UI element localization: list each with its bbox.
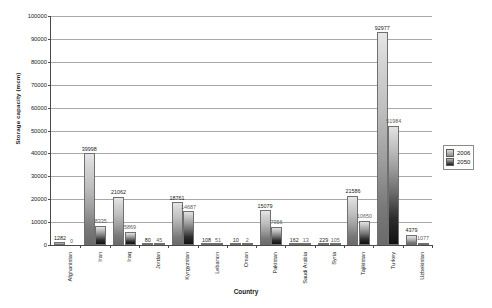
- bar-value-label: 21586: [345, 188, 360, 194]
- bar-group: 1876114687: [168, 16, 197, 245]
- bar-2006: [318, 243, 329, 245]
- legend-item-2006: 2006: [446, 149, 470, 157]
- bar-group: 229105: [315, 16, 344, 245]
- y-axis-tick-label: 40000: [31, 150, 47, 156]
- bar-2050: [388, 126, 399, 245]
- y-axis-tick-label: 70000: [31, 82, 47, 88]
- bar-2050: [183, 211, 194, 245]
- y-axis-tick-label: 80000: [31, 59, 47, 65]
- bar-2050: [212, 243, 223, 245]
- bar-group: 12820: [51, 16, 80, 245]
- bar-group: 399988335: [80, 16, 109, 245]
- bar-2006: [406, 235, 417, 245]
- bar-2050: [330, 243, 341, 245]
- bar-value-label: 39998: [82, 146, 97, 152]
- y-axis-tick-label: 60000: [31, 105, 47, 111]
- y-axis-tick-label: 30000: [31, 173, 47, 179]
- bar-group: 43791077: [403, 16, 432, 245]
- bar-2006: [113, 197, 124, 245]
- x-axis-tick-label: Syria: [331, 252, 337, 265]
- bar-2006: [142, 243, 153, 245]
- bar-2006: [347, 196, 358, 245]
- bar-2050: [154, 243, 165, 245]
- bar-group: 10851: [198, 16, 227, 245]
- x-axis-tick-mark: [285, 245, 286, 248]
- bar-value-label: 229: [319, 237, 328, 243]
- bar-group: 102: [227, 16, 256, 245]
- legend-swatch-2050-icon: [446, 158, 454, 166]
- bar-value-label: 10: [233, 237, 239, 243]
- bar-2050: [271, 227, 282, 245]
- bar-group: 16213: [285, 16, 314, 245]
- bar-value-label: 108: [202, 237, 211, 243]
- legend: 2006 2050: [443, 145, 474, 170]
- bar-value-label: 10650: [357, 213, 372, 219]
- bar-group: 210625869: [110, 16, 139, 245]
- bar-value-label: 51: [215, 237, 221, 243]
- x-axis-tick-mark: [168, 245, 169, 248]
- bar-2050: [418, 243, 429, 245]
- bar-value-label: 92977: [375, 25, 390, 31]
- x-axis-tick-mark: [432, 245, 433, 248]
- y-axis-tick-label: 20000: [31, 196, 47, 202]
- x-axis-tick-label: Oman: [243, 252, 249, 267]
- x-axis-tick-mark: [110, 245, 111, 248]
- x-axis-title: Country: [0, 288, 492, 295]
- x-axis-tick-label: Iran: [97, 252, 103, 262]
- y-axis-tick-label: 50000: [31, 128, 47, 134]
- bar-value-label: 0: [70, 238, 73, 244]
- x-axis-tick-label: Uzbekistan: [419, 252, 425, 280]
- bar-2050: [359, 221, 370, 245]
- y-axis-tick-label: 90000: [31, 36, 47, 42]
- bar-value-label: 45: [156, 237, 162, 243]
- bar-2006: [84, 153, 95, 245]
- bar-value-label: 8335: [95, 218, 107, 224]
- x-axis-tick-label: Lebanon: [214, 252, 220, 274]
- bar-chart: Storage capacity (mcm) 01000020000300004…: [0, 0, 492, 308]
- bar-group: 9297751984: [373, 16, 402, 245]
- bar-value-label: 13: [303, 237, 309, 243]
- legend-label-2006: 2006: [457, 150, 470, 156]
- bar-value-label: 4379: [406, 227, 418, 233]
- x-axis-tick-label: Tajikistan: [360, 252, 366, 275]
- bar-2050: [125, 232, 136, 245]
- bar-value-label: 80: [145, 237, 151, 243]
- bar-2006: [377, 32, 388, 245]
- x-axis-tick-label: Kyrgyzstan: [184, 252, 190, 280]
- bar-value-label: 7956: [271, 219, 283, 225]
- bar-value-label: 162: [290, 237, 299, 243]
- bars-layer: 1282039998833521062586980451876114687108…: [51, 16, 432, 245]
- y-axis-tick-label: 100000: [28, 13, 47, 19]
- x-axis-tick-mark: [344, 245, 345, 248]
- bar-value-label: 1282: [54, 235, 66, 241]
- bar-2006: [260, 210, 271, 245]
- x-axis-tick-mark: [198, 245, 199, 248]
- bar-group: 2158610650: [344, 16, 373, 245]
- x-axis-tick-label: Jordan: [155, 252, 161, 269]
- x-axis-tick-mark: [373, 245, 374, 248]
- x-axis-tick-label: Iraq: [126, 252, 132, 262]
- x-axis-tick-label: Afghanistan: [67, 252, 73, 282]
- bar-2050: [300, 243, 311, 245]
- bar-value-label: 2: [246, 237, 249, 243]
- x-axis-tick-mark: [256, 245, 257, 248]
- plot-area: 0100002000030000400005000060000700008000…: [50, 16, 432, 246]
- x-axis-tick-mark: [403, 245, 404, 248]
- bar-value-label: 21062: [111, 189, 126, 195]
- x-axis-tick-label: Saudi Arabia: [302, 252, 308, 284]
- x-axis-tick-label: Pakistan: [272, 252, 278, 273]
- y-axis-title: Storage capacity (mcm): [14, 54, 21, 164]
- x-axis-tick-mark: [227, 245, 228, 248]
- bar-value-label: 15079: [258, 203, 273, 209]
- legend-swatch-2006-icon: [446, 149, 454, 157]
- bar-group: 8045: [139, 16, 168, 245]
- x-axis-tick-mark: [139, 245, 140, 248]
- bar-value-label: 14687: [181, 204, 196, 210]
- bar-value-label: 105: [331, 237, 340, 243]
- bar-2006: [54, 242, 65, 245]
- y-axis-tick-label: 0: [44, 242, 47, 248]
- bar-2006: [289, 243, 300, 245]
- y-axis-tick-label: 10000: [31, 219, 47, 225]
- bar-2050: [95, 226, 106, 245]
- bar-value-label: 1077: [417, 235, 429, 241]
